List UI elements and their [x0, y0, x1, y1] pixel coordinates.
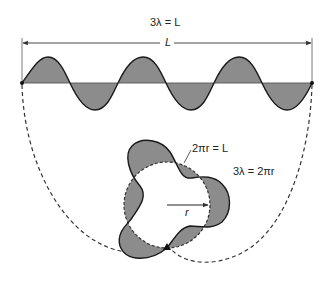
radius-label: r: [185, 206, 189, 218]
wave-end-dot: [310, 81, 314, 85]
title-equation: 3λ = L: [150, 16, 180, 28]
wave-start-dot: [20, 81, 24, 85]
standing-wave-condition: 3λ = 2πr: [233, 165, 275, 177]
circumference-pointer: [184, 150, 191, 163]
circular-wave: [119, 140, 229, 258]
circumference-equation: 2πr = L: [192, 142, 228, 154]
circular-wave-fill: [119, 140, 229, 258]
length-label: L: [163, 36, 173, 48]
